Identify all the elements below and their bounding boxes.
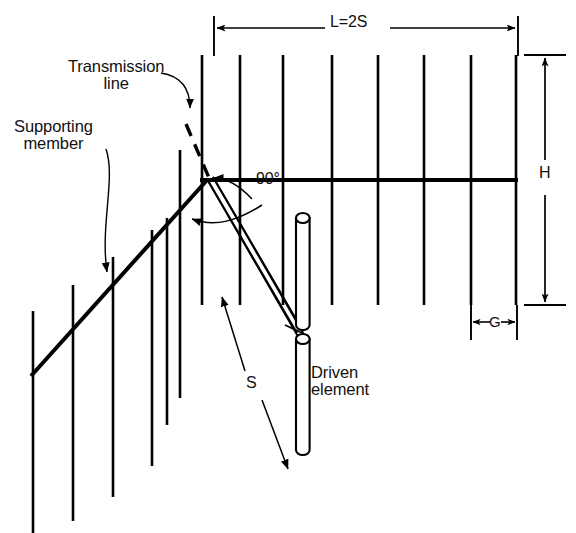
transmission-line-label: Transmission line	[68, 58, 164, 93]
angle-label: 90°	[256, 171, 280, 188]
length-dimension-label: L=2S	[330, 14, 367, 31]
spacing-dimension-label: S	[246, 375, 257, 392]
diagram-canvas: Transmission line Supporting member Driv…	[0, 0, 576, 533]
parasitic-element-group-left	[33, 150, 180, 533]
transmission-line-leader	[161, 73, 190, 108]
driven-element-label: Driven element	[311, 364, 369, 399]
dim-arrow-down	[262, 400, 288, 469]
gap-dimension-label: G	[489, 314, 501, 330]
height-dimension-label: H	[539, 165, 550, 182]
transmission-line	[186, 124, 209, 178]
supporting-member-leader	[105, 149, 109, 272]
dim-arrow-up	[222, 297, 245, 371]
supporting-member	[31, 179, 208, 376]
supporting-member-label: Supporting member	[14, 118, 93, 153]
driven-element-upper	[296, 213, 310, 330]
driven-element-lower	[296, 334, 310, 455]
feed-rods	[207, 177, 306, 340]
